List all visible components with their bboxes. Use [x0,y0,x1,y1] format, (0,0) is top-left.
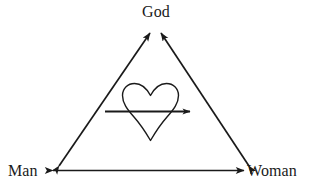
node-label-man: Man [8,163,38,179]
node-label-woman: Woman [247,163,297,179]
node-label-god: God [0,4,312,20]
edge-man-god [59,33,150,166]
diagram-canvas: God Man Woman [0,0,312,188]
edge-woman-god [161,33,249,166]
relationship-triangle-graphic [0,0,312,188]
